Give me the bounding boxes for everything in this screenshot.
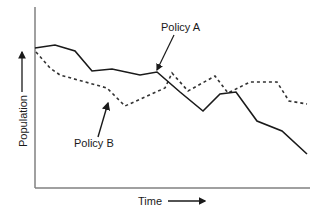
x-axis-label: Time [138, 195, 162, 207]
policy-a-pointer-arrow [157, 35, 174, 70]
series-policy-b-line [36, 52, 307, 106]
policy-a-label: Policy A [161, 21, 201, 33]
policy-b-label: Policy B [74, 137, 114, 149]
line-chart-canvas: Policy A Policy B Time Population [0, 0, 328, 219]
chart: Policy A Policy B Time Population [0, 0, 328, 219]
policy-b-pointer-arrow [98, 103, 108, 137]
y-axis-label: Population [17, 95, 29, 147]
